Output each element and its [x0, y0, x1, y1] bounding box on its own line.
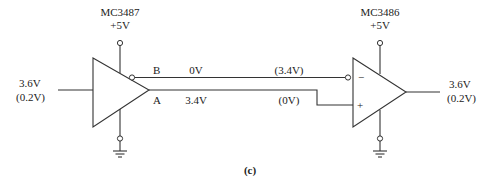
receiver-ground-pin-icon [377, 136, 382, 141]
driver-input-high-label: 3.6V [19, 77, 41, 89]
driver-triangle-icon [93, 58, 149, 127]
driver-supply-pin-icon [117, 40, 122, 45]
driver-mc3487: MC3487 +5V 3.6V (0.2V) B A [16, 6, 161, 157]
figure-caption: (c) [244, 164, 257, 177]
line-b-driver-voltage: 0V [189, 64, 203, 76]
receiver-mc3486: MC3486 +5V − + 3.6V (0.2V) [345, 6, 476, 157]
receiver-noninverting-label: + [357, 99, 363, 111]
receiver-output-high-label: 3.6V [449, 78, 471, 90]
receiver-ground-icon [373, 141, 387, 157]
driver-ground-pin-icon [117, 136, 122, 141]
receiver-supply-label: +5V [370, 19, 390, 31]
transmission-lines: 0V 3.4V (3.4V) (0V) [135, 64, 353, 107]
driver-input-low-label: (0.2V) [16, 91, 45, 104]
receiver-supply-pin-icon [377, 40, 382, 45]
line-a-wire [149, 90, 353, 105]
receiver-inverting-bubble-icon [345, 75, 350, 80]
driver-output-b-label: B [153, 64, 160, 76]
driver-supply-label: +5V [110, 19, 130, 31]
driver-output-a-label: A [153, 94, 161, 106]
driver-part-label: MC3487 [100, 6, 140, 18]
differential-line-circuit: MC3487 +5V 3.6V (0.2V) B A 0V 3.4V (3.4V… [0, 0, 497, 184]
line-b-alt-voltage: (3.4V) [274, 64, 303, 77]
receiver-inverting-label: − [358, 71, 364, 83]
driver-ground-icon [113, 141, 127, 157]
line-a-alt-voltage: (0V) [279, 94, 300, 107]
line-a-driver-voltage: 3.4V [185, 94, 207, 106]
receiver-part-label: MC3486 [360, 6, 400, 18]
driver-inverting-bubble-icon [129, 75, 134, 80]
receiver-output-low-label: (0.2V) [447, 92, 476, 105]
